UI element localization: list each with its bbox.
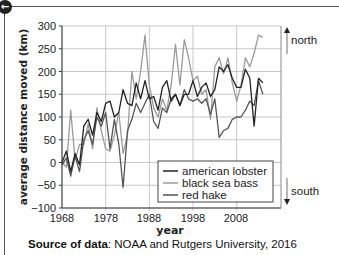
source-label: Source of data bbox=[28, 238, 108, 250]
south-label: south bbox=[291, 185, 319, 197]
series-line-black-sea-bass bbox=[62, 35, 263, 167]
x-tick: 1968 bbox=[50, 212, 74, 224]
y-axis-label: average distance moved (km) bbox=[17, 29, 29, 205]
series-line-american-lobster bbox=[62, 65, 263, 172]
y-tick: 250 bbox=[38, 43, 56, 55]
arrow-down-icon bbox=[284, 199, 290, 205]
y-tick: 0 bbox=[50, 157, 56, 169]
south-indicator: south bbox=[284, 178, 319, 205]
x-tick-labels: 1968 1978 1988 1998 2008 bbox=[50, 212, 248, 224]
x-tick: 1998 bbox=[181, 212, 205, 224]
y-tick: −50 bbox=[37, 179, 56, 191]
y-tick: 50 bbox=[44, 134, 56, 146]
north-indicator: north bbox=[284, 27, 317, 54]
line-chart: 300 250 200 150 100 50 0 −50 −100 1968 1… bbox=[0, 0, 339, 255]
x-tick: 2008 bbox=[224, 212, 248, 224]
legend-item-black-sea-bass: black sea bass bbox=[182, 177, 258, 189]
legend-item-red-hake: red hake bbox=[182, 189, 227, 201]
source-text: : NOAA and Rutgers University, 2016 bbox=[108, 238, 297, 250]
legend-item-american-lobster: american lobster bbox=[182, 165, 267, 177]
y-tick: 200 bbox=[38, 66, 56, 78]
x-axis-label: year bbox=[156, 224, 184, 237]
x-tick: 1978 bbox=[94, 212, 118, 224]
y-tick-labels: 300 250 200 150 100 50 0 −50 −100 bbox=[31, 20, 56, 214]
source-note: Source of data: NOAA and Rutgers Univers… bbox=[28, 238, 297, 250]
y-tick: 300 bbox=[38, 20, 56, 32]
north-label: north bbox=[291, 34, 317, 46]
y-tick: 150 bbox=[38, 88, 56, 100]
arrow-up-icon bbox=[284, 27, 290, 33]
y-tick: 100 bbox=[38, 111, 56, 123]
x-tick: 1988 bbox=[137, 212, 161, 224]
chart-legend: american lobster black sea bass red hake bbox=[158, 161, 273, 202]
